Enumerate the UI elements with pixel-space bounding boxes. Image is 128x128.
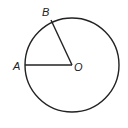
label-A: A: [12, 60, 20, 72]
radius-OB: [51, 20, 72, 65]
circle-diagram: B A O: [0, 0, 128, 128]
label-B: B: [42, 6, 49, 18]
label-O: O: [74, 61, 83, 73]
